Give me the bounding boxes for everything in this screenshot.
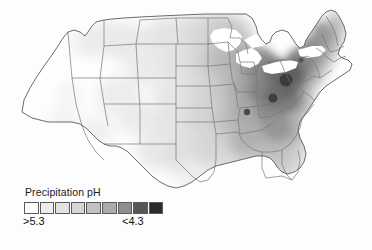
legend-low-label: >5.3 xyxy=(23,215,45,228)
legend-swatch-5 xyxy=(102,202,117,214)
legend-swatch-8 xyxy=(149,202,164,214)
legend-swatch-3 xyxy=(71,202,86,214)
legend: Precipitation pH >5.3 <4.3 xyxy=(24,186,174,229)
legend-swatch-0 xyxy=(24,202,39,214)
legend-swatch-2 xyxy=(55,202,70,214)
precipitation-ph-map-figure: Precipitation pH >5.3 <4.3 xyxy=(0,0,372,250)
legend-title: Precipitation pH xyxy=(25,186,174,198)
legend-swatch-4 xyxy=(86,202,101,214)
legend-swatch-1 xyxy=(40,202,55,214)
legend-swatch-strip xyxy=(24,202,174,214)
legend-swatch-7 xyxy=(133,202,148,214)
legend-swatch-6 xyxy=(118,202,133,214)
legend-endpoint-labels: >5.3 <4.3 xyxy=(24,215,174,229)
legend-high-label: <4.3 xyxy=(122,215,144,228)
